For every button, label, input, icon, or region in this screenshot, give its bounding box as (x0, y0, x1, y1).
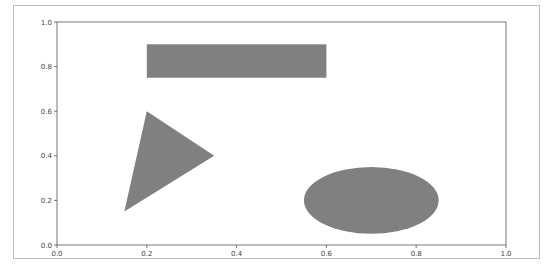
chart-canvas: 0.00.20.40.60.81.00.00.20.40.60.81.0 (0, 0, 550, 280)
y-tick-label: 0.6 (41, 108, 53, 116)
x-tick-label: 0.0 (51, 250, 62, 258)
x-tick-label: 0.4 (231, 250, 243, 258)
y-tick-label: 0.2 (41, 197, 52, 205)
x-tick-label: 1.0 (500, 250, 511, 258)
rectangle-shape (147, 44, 327, 77)
x-tick-label: 0.8 (411, 250, 422, 258)
y-tick-label: 0.4 (41, 152, 53, 160)
y-tick-label: 1.0 (41, 19, 52, 27)
triangle-shape (124, 111, 214, 211)
x-tick-label: 0.6 (321, 250, 333, 258)
x-tick-label: 0.2 (141, 250, 152, 258)
y-tick-label: 0.0 (41, 242, 52, 250)
y-tick-label: 0.8 (41, 63, 52, 71)
ellipse-shape (304, 167, 439, 234)
shapes-layer (124, 44, 438, 234)
